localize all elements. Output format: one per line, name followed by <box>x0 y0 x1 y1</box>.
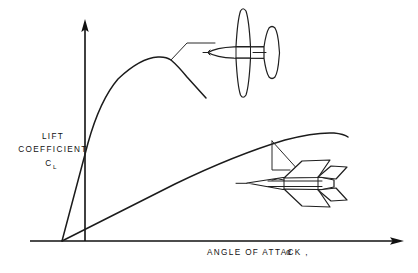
straight-wing-propeller-aircraft <box>203 9 280 98</box>
label-group: LIFT COEFFICIENT C L ANGLE OF ATTACK , α <box>18 132 309 257</box>
x-axis-label-alpha-symbol: α <box>286 248 291 257</box>
y-axis-label-line3: C <box>45 159 52 168</box>
leader-line-group <box>171 43 300 172</box>
swept-delta-wing-fighter-aircraft <box>236 160 347 207</box>
y-axis-label-line1: LIFT <box>42 132 64 141</box>
x-axis-label: ANGLE OF ATTACK , <box>207 248 309 257</box>
lift-curve-diagram: LIFT COEFFICIENT C L ANGLE OF ATTACK , α <box>0 0 418 273</box>
aircraft-main-wing-lower <box>236 58 251 97</box>
aircraft-main-wing-upper <box>236 9 251 47</box>
figure-root: LIFT COEFFICIENT C L ANGLE OF ATTACK , α <box>0 0 418 273</box>
leader-line-to-swept-wing-aircraft <box>272 141 290 170</box>
fighter-fuselage <box>247 178 334 190</box>
curve-group <box>62 57 348 241</box>
y-axis-label-subscript: L <box>53 163 57 170</box>
y-axis-label-line2: COEFFICIENT <box>18 145 87 154</box>
